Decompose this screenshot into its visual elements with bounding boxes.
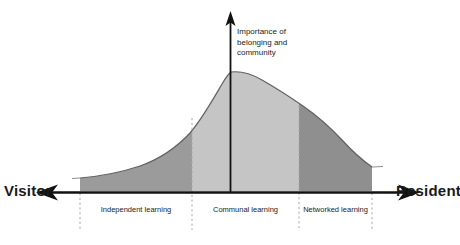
zone-label-communal-learning: Communal learning	[192, 205, 299, 214]
y-axis-title-line-1: Importance of	[237, 27, 315, 38]
zone-label-networked-learning: Networked learning	[299, 205, 372, 214]
curve-right-tail-end	[372, 167, 383, 168]
diagram-canvas: Importance of belonging and community Vi…	[0, 0, 460, 245]
y-axis-title-line-2: belonging and	[237, 38, 315, 49]
zone-label-independent-learning: Independent learning	[80, 205, 192, 214]
y-axis-title: Importance of belonging and community	[237, 27, 315, 59]
curve-left-tail-end	[72, 178, 80, 179]
y-axis-title-line-3: community	[237, 48, 315, 59]
x-axis-left-endpoint-label: Visitor	[4, 182, 52, 199]
curve-area-group	[72, 72, 383, 191]
x-axis-right-endpoint-label: Resident	[396, 182, 460, 199]
